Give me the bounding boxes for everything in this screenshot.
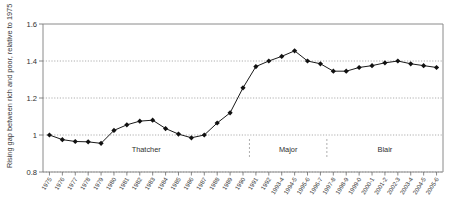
data-point <box>421 63 426 68</box>
y-tick-label: 1 <box>33 131 37 140</box>
series-line <box>49 51 436 144</box>
data-point <box>279 54 284 59</box>
data-point <box>176 131 181 136</box>
data-point <box>382 60 387 65</box>
data-point <box>408 61 413 66</box>
x-tick-label: 1991 <box>246 175 259 191</box>
data-point <box>344 69 349 74</box>
x-tick-label: 1985 <box>169 175 182 191</box>
era-label: Thatcher <box>132 145 162 154</box>
data-point <box>434 65 439 70</box>
y-axis-ticks: 0.811.21.41.6 <box>26 20 43 177</box>
data-point <box>47 132 52 137</box>
data-point <box>369 63 374 68</box>
x-tick-label: 1977 <box>65 175 78 191</box>
data-markers <box>47 48 439 146</box>
data-point <box>163 126 168 131</box>
data-point <box>266 58 271 63</box>
x-tick-label: 1989 <box>220 175 233 191</box>
x-tick-label: 1986 <box>182 175 195 191</box>
y-tick-label: 1.4 <box>26 57 37 66</box>
data-point <box>86 139 91 144</box>
data-point <box>73 139 78 144</box>
x-tick-label: 1981 <box>117 175 130 191</box>
x-axis-ticks: 1975197619771978197919801981198219831984… <box>40 172 441 196</box>
data-point <box>240 85 245 90</box>
data-point <box>253 64 258 69</box>
x-tick-label: 1984 <box>156 175 169 191</box>
era-label: Major <box>279 145 298 154</box>
x-tick-label: 1978 <box>78 175 91 191</box>
data-point <box>395 58 400 63</box>
x-tick-label: 1987 <box>195 175 208 191</box>
chart-container: 0.811.21.41.6Rising gap between rich and… <box>0 0 453 201</box>
line-chart: 0.811.21.41.6Rising gap between rich and… <box>0 0 453 201</box>
y-tick-label: 1.6 <box>26 20 37 29</box>
y-axis-title: Rising gap between rich and poor, relati… <box>5 4 14 168</box>
data-point <box>137 119 142 124</box>
x-tick-label: 1979 <box>91 175 104 191</box>
era-label: Blair <box>378 145 393 154</box>
data-point <box>357 65 362 70</box>
x-tick-label: 1990 <box>233 175 246 191</box>
era-annotations: ThatcherMajorBlair <box>132 139 393 158</box>
x-tick-label: 1975 <box>40 175 53 191</box>
data-point <box>60 137 65 142</box>
x-tick-label: 2005-6 <box>424 175 440 195</box>
data-point <box>124 122 129 127</box>
x-tick-label: 1980 <box>104 175 117 191</box>
data-point <box>150 118 155 123</box>
gridlines <box>43 61 443 172</box>
x-tick-label: 1988 <box>207 175 220 191</box>
y-tick-label: 0.8 <box>26 168 37 177</box>
x-tick-label: 1976 <box>53 175 66 191</box>
data-point <box>318 61 323 66</box>
x-tick-label: 1983 <box>143 175 156 191</box>
data-point <box>189 135 194 140</box>
data-point <box>331 69 336 74</box>
y-tick-label: 1.2 <box>26 94 37 103</box>
x-tick-label: 1982 <box>130 175 143 191</box>
